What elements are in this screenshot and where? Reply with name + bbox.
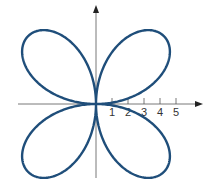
x-axis-arrow-icon bbox=[195, 101, 203, 107]
y-axis-arrow-icon bbox=[93, 5, 99, 13]
rose-curve-chart: 12345 bbox=[0, 0, 215, 191]
x-tick-label: 4 bbox=[157, 106, 163, 118]
x-tick-label: 5 bbox=[173, 106, 179, 118]
x-tick-label: 1 bbox=[109, 106, 115, 118]
